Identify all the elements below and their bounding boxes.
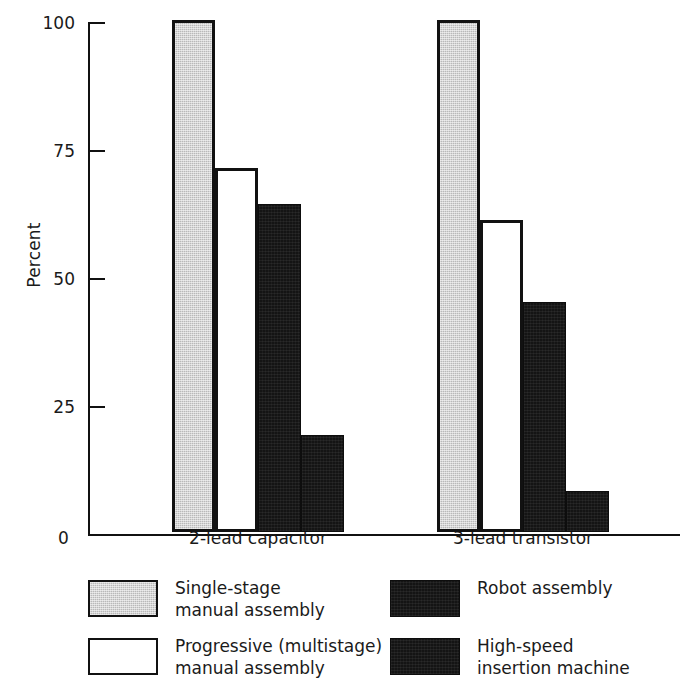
legend-label: Progressive (multistage) manual assembly: [175, 636, 382, 680]
plot-area: 100755025: [88, 22, 680, 534]
legend-swatch-gray-icon: [88, 580, 158, 617]
y-axis-tick: 50: [88, 278, 105, 280]
legend-label: Single-stage manual assembly: [175, 578, 325, 622]
y-axis-tick-label: 75: [53, 143, 75, 160]
y-axis-tick: 100: [88, 22, 105, 24]
chart-legend: Single-stage manual assembly Robot assem…: [0, 572, 685, 693]
bar: [523, 302, 566, 532]
legend-item-robot-assembly[interactable]: Robot assembly: [390, 578, 612, 617]
bar-chart: Percent 100755025 0 2-lead capacitor3-le…: [0, 0, 685, 693]
y-axis-tick-label: 100: [43, 15, 75, 32]
legend-swatch-black-icon: [390, 638, 460, 675]
bar: [258, 204, 301, 532]
y-axis-zero-label: 0: [58, 528, 69, 548]
y-axis-tick-mark: [90, 278, 105, 280]
y-axis-tick-mark: [90, 150, 105, 152]
bar: [172, 20, 215, 532]
y-axis-tick-mark: [90, 406, 105, 408]
legend-swatch-black-icon: [390, 580, 460, 617]
legend-item-progressive-multistage-manual-assembly[interactable]: Progressive (multistage) manual assembly: [88, 636, 382, 680]
legend-label: High-speed insertion machine: [477, 636, 630, 680]
y-axis-tick-label: 50: [53, 271, 75, 288]
y-axis-tick: 25: [88, 406, 105, 408]
y-axis-title: Percent: [24, 195, 44, 315]
bar: [437, 20, 480, 532]
y-axis-tick-label: 25: [53, 399, 75, 416]
bar: [480, 220, 523, 532]
y-axis-tick-mark: [90, 22, 105, 24]
legend-label: Robot assembly: [477, 578, 612, 600]
bar: [301, 435, 344, 532]
bar: [566, 491, 609, 532]
y-axis-tick: 75: [88, 150, 105, 152]
legend-item-high-speed-insertion-machine[interactable]: High-speed insertion machine: [390, 636, 630, 680]
legend-swatch-white-icon: [88, 638, 158, 675]
legend-item-single-stage-manual-assembly[interactable]: Single-stage manual assembly: [88, 578, 325, 622]
bar: [215, 168, 258, 532]
